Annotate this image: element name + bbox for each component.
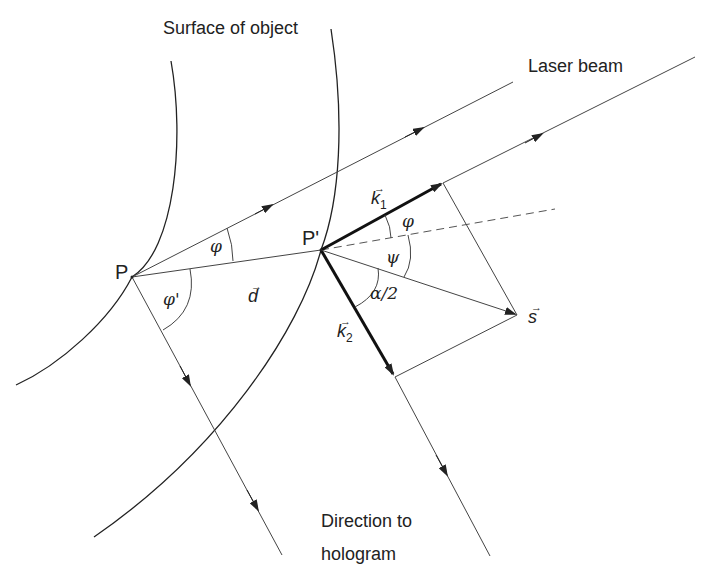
vector-d-line (132, 250, 321, 277)
vector-k2 (321, 250, 393, 374)
laser-beam-label: Laser beam (528, 57, 623, 75)
direction-label-line2: hologram (321, 545, 396, 563)
laser-arrow-1 (255, 205, 272, 214)
angle-arc-psi (404, 235, 411, 277)
parallelogram-side-top (443, 183, 517, 315)
parallelogram-side-bottom (395, 315, 517, 377)
point-p-prime-label: P' (302, 228, 319, 248)
vector-s-label: → s (528, 308, 537, 326)
point-p-prime-dot (320, 249, 323, 252)
angle-alpha-half-label: α/2 (370, 285, 398, 302)
surface-label: Surface of object (163, 19, 298, 37)
vector-k1-subscript: 1 (380, 198, 387, 212)
vector-k2-subscript: 2 (346, 331, 353, 345)
vector-arrow-glyph: → (531, 302, 542, 313)
laser-arrow-2 (405, 128, 423, 137)
direction-label-line1: Direction to (321, 512, 412, 530)
diagram-canvas: Surface of object Laser beam Direction t… (0, 0, 711, 574)
point-p-dot (131, 276, 134, 279)
angle-arc-phi-right (385, 215, 391, 238)
hologram-arrow-1 (180, 366, 190, 385)
vector-k2-label: → k2 (337, 322, 353, 344)
angle-phi-top-label: φ (210, 238, 222, 255)
point-p-label: P (115, 262, 128, 282)
vector-arrow-glyph: → (251, 281, 262, 292)
vector-d-label: → d (248, 287, 258, 305)
hologram-line-left (132, 277, 282, 555)
surface-curve-left (16, 61, 177, 385)
hologram-arrow-3 (436, 455, 447, 475)
angle-phi-prime-label: φ' (163, 291, 180, 308)
hologram-arrow-2 (247, 490, 258, 510)
laser-arrow-3 (525, 134, 542, 143)
angle-psi-label: ψ (386, 249, 399, 266)
vector-arrow-glyph: → (374, 183, 385, 194)
vector-k1-label: → k1 (371, 189, 387, 211)
angle-arc-phi-top (227, 228, 233, 261)
vector-arrow-glyph: → (340, 316, 351, 327)
angle-phi-right-label: φ (402, 213, 414, 230)
surface-curve-right (94, 29, 339, 537)
diagram-svg (0, 0, 711, 574)
